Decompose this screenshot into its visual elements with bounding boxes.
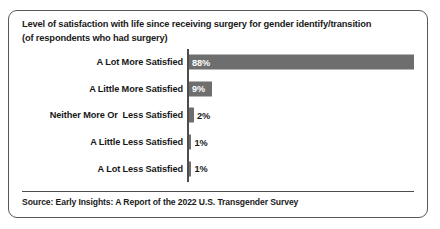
bar-value-neither-more-or-less-satisfied: 2%	[197, 110, 210, 120]
bar-row: A Little More Satisfied 9%	[22, 76, 416, 103]
bar-row: A Lot More Satisfied 88%	[22, 49, 416, 76]
bar-track: 1%	[189, 161, 192, 176]
category-label-a-little-more-satisfied: A Little More Satisfied	[89, 84, 183, 94]
bar-a-lot-less-satisfied	[189, 161, 192, 176]
chart-title: Level of satisfaction with life since re…	[22, 18, 414, 45]
bar-a-little-less-satisfied	[189, 135, 192, 150]
source-divider	[22, 191, 414, 192]
bar-a-lot-more-satisfied	[189, 55, 415, 70]
category-label-a-little-less-satisfied: A Little Less Satisfied	[90, 137, 183, 147]
bar-value-a-lot-more-satisfied: 88%	[192, 57, 210, 67]
bar-neither-more-or-less-satisfied	[189, 108, 194, 123]
bar-track: 1%	[189, 135, 192, 150]
bar-chart-plot-area: A Lot More Satisfied 88% A Little More S…	[22, 49, 416, 182]
bar-track: 88%	[189, 55, 415, 70]
category-label-a-lot-more-satisfied: A Lot More Satisfied	[97, 57, 183, 67]
bar-row: Neither More Or Less Satisfied 2%	[22, 102, 416, 129]
bar-value-a-little-more-satisfied: 9%	[192, 84, 205, 94]
bar-row: A Little Less Satisfied 1%	[22, 129, 416, 156]
bar-track: 2%	[189, 108, 194, 123]
bar-track: 9%	[189, 81, 212, 96]
bar-value-a-lot-less-satisfied: 1%	[195, 164, 208, 174]
chart-title-line-1: Level of satisfaction with life since re…	[22, 18, 414, 32]
source-note: Source: Early Insights: A Report of the …	[22, 197, 414, 207]
chart-card: Level of satisfaction with life since re…	[8, 10, 428, 218]
category-label-neither-more-or-less-satisfied: Neither More Or Less Satisfied	[50, 110, 183, 120]
category-label-a-lot-less-satisfied: A Lot Less Satisfied	[98, 164, 183, 174]
bar-value-a-little-less-satisfied: 1%	[195, 137, 208, 147]
bar-row: A Lot Less Satisfied 1%	[22, 155, 416, 182]
chart-title-line-2: (of respondents who had surgery)	[22, 32, 414, 46]
